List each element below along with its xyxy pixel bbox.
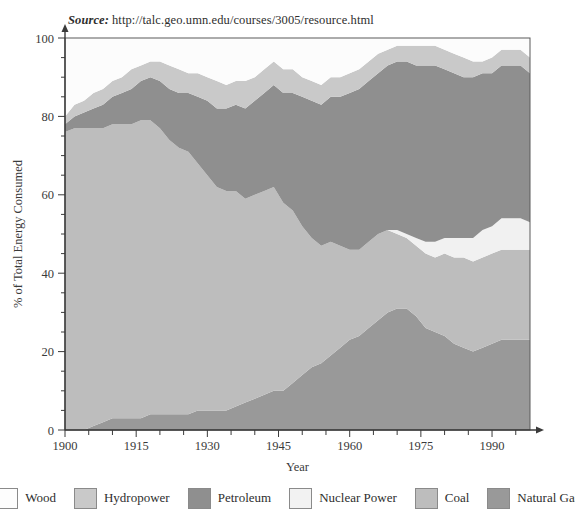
legend-label: Coal	[445, 490, 470, 506]
x-axis-arrow	[536, 427, 544, 434]
x-axis: 1900191519301945196019751990	[53, 427, 545, 454]
x-tick-label: 1990	[480, 439, 505, 453]
stacked-area-chart: 020406080100% of Total Energy Consumed19…	[0, 0, 575, 478]
legend-item-coal: Coal	[415, 488, 470, 509]
chart-legend: WoodHydropowerPetroleumNuclear PowerCoal…	[0, 478, 575, 518]
legend-label: Hydropower	[104, 490, 170, 506]
x-axis-title: Year	[286, 460, 310, 474]
legend-swatch-icon	[0, 488, 18, 509]
energy-consumption-figure: Source:http://talc.geo.umn.edu/courses/3…	[0, 0, 575, 526]
legend-item-natural-gas: Natural Gas	[487, 488, 575, 509]
y-tick-label: 0	[48, 424, 54, 438]
legend-item-wood: Wood	[0, 488, 56, 509]
y-tick-label: 60	[42, 188, 55, 202]
legend-swatch-icon	[188, 488, 211, 509]
legend-swatch-icon	[415, 488, 438, 509]
y-axis-arrow	[62, 24, 69, 32]
y-tick-label: 40	[42, 267, 55, 281]
y-axis-title: % of Total Energy Consumed	[11, 159, 25, 308]
legend-item-nuclear-power: Nuclear Power	[289, 488, 397, 509]
legend-label: Petroleum	[218, 490, 271, 506]
x-tick-label: 1915	[124, 439, 149, 453]
legend-swatch-icon	[289, 488, 312, 509]
x-tick-label: 1975	[408, 439, 433, 453]
legend-item-petroleum: Petroleum	[188, 488, 271, 509]
legend-label: Wood	[25, 490, 56, 506]
y-tick-label: 80	[42, 110, 55, 124]
legend-swatch-icon	[74, 488, 97, 509]
y-tick-label: 20	[42, 345, 55, 359]
legend-label: Natural Gas	[517, 490, 575, 506]
x-tick-label: 1960	[337, 439, 362, 453]
x-tick-label: 1930	[195, 439, 220, 453]
legend-item-hydropower: Hydropower	[74, 488, 170, 509]
x-tick-label: 1945	[266, 439, 291, 453]
x-tick-label: 1900	[53, 439, 78, 453]
y-tick-label: 100	[35, 32, 54, 46]
legend-label: Nuclear Power	[319, 490, 397, 506]
y-axis: 020406080100	[35, 24, 68, 438]
area-series-group	[65, 38, 530, 430]
legend-swatch-icon	[487, 488, 510, 509]
